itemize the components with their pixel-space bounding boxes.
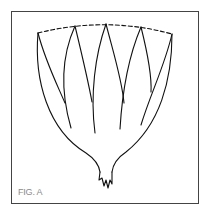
stem xyxy=(99,172,112,188)
petal-5 xyxy=(106,24,124,103)
petal-4 xyxy=(93,24,106,133)
flower-bud-drawing xyxy=(0,0,208,215)
petal-2 xyxy=(64,26,75,128)
petal-6 xyxy=(120,27,141,129)
petal-1 xyxy=(38,33,65,103)
outer-right-contour xyxy=(112,34,172,172)
petal-7 xyxy=(141,27,151,92)
petal-3 xyxy=(75,26,92,102)
outer-left-contour xyxy=(37,33,100,172)
figure-caption: FIG. A xyxy=(18,187,42,197)
